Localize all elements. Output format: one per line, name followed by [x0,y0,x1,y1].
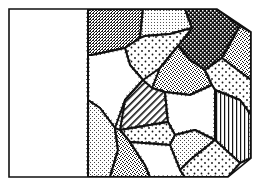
quilt-illustration [0,0,262,184]
patch-group [86,7,253,179]
quilt-artwork [0,0,262,184]
